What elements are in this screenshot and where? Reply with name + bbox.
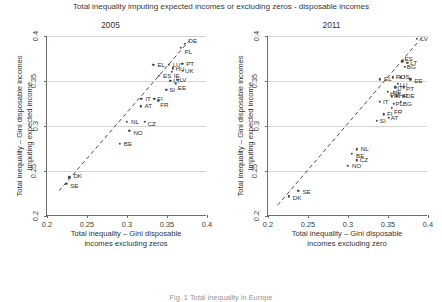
- y-axis-title-line1: Total inequality – Gini disposable incom…: [236, 56, 245, 197]
- x-tick-label: 0.4: [423, 220, 433, 229]
- x-tick-mark: [268, 215, 269, 218]
- data-point-label: UK: [185, 68, 194, 75]
- data-point-label: CZ: [148, 121, 156, 128]
- data-point-label: EE: [414, 78, 422, 85]
- x-tick-label: 0.25: [80, 220, 94, 229]
- data-point-label: LV: [179, 77, 186, 84]
- data-point-label: EL: [384, 76, 392, 83]
- data-point-label: SE: [302, 189, 310, 196]
- y-axis-title-line1: Total inequality – Gini disposable incom…: [15, 56, 24, 197]
- data-point-label: SI: [380, 118, 386, 125]
- panel-title-2011: 2011: [221, 20, 442, 30]
- reference-line: [268, 36, 427, 215]
- data-point-label: EE: [178, 85, 186, 92]
- x-axis-title-line1: Total inequality – Gini disposable: [46, 229, 206, 239]
- x-tick-label: 0.35: [381, 220, 395, 229]
- data-point-label: DE: [406, 93, 415, 100]
- x-tick-mark: [87, 215, 88, 218]
- x-axis-title-line2: incomes excluding zeros: [46, 239, 206, 249]
- data-point-label: FR: [160, 102, 168, 109]
- x-tick-label: 0.4: [202, 220, 212, 229]
- x-axis-title-2005: Total inequality – Gini disposable incom…: [46, 229, 206, 248]
- panel-2011: 2011 0.20.250.30.350.40.20.250.30.350.4L…: [221, 20, 442, 278]
- data-point-label: AT: [145, 103, 152, 110]
- x-axis-title-2011: Total inequality – Gini disposable incom…: [267, 229, 427, 248]
- data-point-label: DK: [293, 195, 302, 202]
- data-point-label: PL: [185, 49, 193, 56]
- x-tick-label: 0.2: [263, 220, 273, 229]
- data-point-label: NO: [133, 130, 142, 137]
- x-tick-mark: [348, 215, 349, 218]
- panel-2005: 2005 0.20.250.30.350.40.20.250.30.350.4D…: [0, 20, 221, 278]
- data-point-label: IT: [383, 99, 389, 106]
- data-point-label: BE: [124, 141, 132, 148]
- plot-area-2005: 0.20.250.30.350.40.20.250.30.350.4DEPLEL…: [46, 36, 206, 216]
- x-tick-label: 0.25: [301, 220, 315, 229]
- x-tick-label: 0.35: [160, 220, 174, 229]
- figure-caption: Fig. 1 Total inequality in Europe: [0, 293, 442, 302]
- y-axis-title-2011: Total inequality – Gini disposable incom…: [223, 36, 237, 216]
- data-point-label: ES: [163, 73, 171, 80]
- y-axis-title-2005: Total inequality – Gini disposable incom…: [2, 36, 16, 216]
- data-point-label: NO: [352, 163, 361, 170]
- x-tick-label: 0.3: [343, 220, 353, 229]
- plot-area-2011: 0.20.250.30.350.40.20.250.30.350.4LVESLT…: [267, 36, 427, 216]
- x-tick-mark: [207, 215, 208, 218]
- data-point-label: BG: [407, 64, 416, 71]
- x-tick-mark: [127, 215, 128, 218]
- x-tick-mark: [428, 215, 429, 218]
- x-axis-title-line2: incomes excluding zero: [267, 239, 427, 249]
- x-tick-label: 0.2: [42, 220, 52, 229]
- x-tick-mark: [167, 215, 168, 218]
- x-tick-label: 0.3: [122, 220, 132, 229]
- y-axis-title-line2: imputing expected income: [25, 36, 35, 216]
- y-axis-title-line2: imputing expected income: [246, 36, 256, 216]
- data-point-label: BG: [403, 101, 412, 108]
- data-point-label: DE: [189, 38, 198, 45]
- data-point-label: AT: [391, 115, 398, 122]
- x-axis-title-line1: Total inequality – Gini disposable: [267, 229, 427, 239]
- data-point-label: EL: [157, 62, 165, 69]
- figure-suptitle: Total inequality imputing expected incom…: [0, 2, 442, 11]
- data-point-label: NL: [131, 119, 139, 126]
- data-point-label: LV: [421, 36, 428, 43]
- data-point-label: SI: [169, 87, 175, 94]
- x-tick-mark: [388, 215, 389, 218]
- x-tick-mark: [308, 215, 309, 218]
- x-tick-mark: [47, 215, 48, 218]
- panel-title-2005: 2005: [0, 20, 221, 30]
- data-point-label: SE: [70, 183, 78, 190]
- data-point-label: DK: [73, 173, 82, 180]
